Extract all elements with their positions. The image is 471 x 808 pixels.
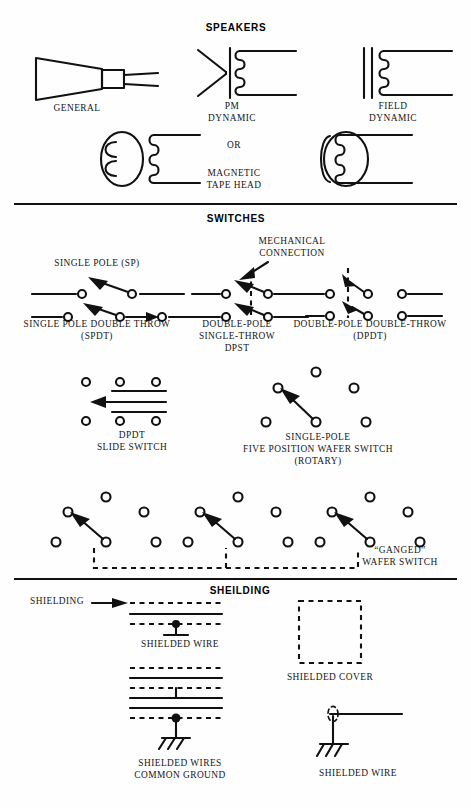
switch-spdt-symbol: [28, 272, 188, 318]
tape-head-left-symbol: [92, 130, 202, 188]
label-wafer-line2: FIVE POSITION WAFER SWITCH: [243, 444, 393, 456]
shielded-wire-single-symbol: [128, 596, 224, 636]
switch-dpst-symbol: [192, 272, 310, 318]
label-speaker-pm-line2: DYNAMIC: [208, 113, 256, 125]
label-speaker-field-line2: DYNAMIC: [369, 113, 417, 125]
section-heading-switches: SWITCHES: [207, 213, 265, 224]
label-speaker-general: GENERAL: [54, 103, 101, 115]
label-single-pole: SINGLE POLE (SP): [54, 258, 139, 270]
label-tape-head-line1: MAGNETIC: [207, 168, 260, 180]
label-slide-switch-line2: SLIDE SWITCH: [97, 442, 167, 454]
switch-dpdt-symbol: [306, 268, 446, 318]
switch-wafer-rotary-symbol: [258, 364, 376, 430]
label-wafer-line1: SINGLE-POLE: [286, 432, 351, 444]
label-speaker-field-line1: FIELD: [379, 101, 408, 113]
speaker-general-symbol: [30, 48, 160, 104]
switch-dpdt-slide-symbol: [78, 374, 188, 426]
tape-head-right-symbol: [310, 130, 416, 188]
label-spdt-line2: (SPDT): [81, 331, 113, 343]
shielding-callout-arrow-icon: [92, 597, 132, 611]
label-shielded-wires-cg-line1: SHIELDED WIRES: [138, 758, 221, 770]
label-dpst-line1: DOUBLE-POLE: [202, 319, 272, 331]
label-shielded-wire-1: SHIELDED WIRE: [141, 639, 219, 651]
speaker-field-dynamic-symbol: [358, 46, 458, 98]
label-dpst-line2: SINGLE-THROW: [199, 331, 275, 343]
shielded-cover-symbol: [296, 598, 364, 666]
section-heading-shielding: SHEILDING: [210, 585, 271, 596]
divider-speakers-switches: [14, 203, 457, 205]
label-wafer-line3: (ROTARY): [294, 456, 341, 468]
label-dpst-line3: DPST: [225, 343, 250, 355]
label-dpdt-line1: DOUBLE-POLE DOUBLE-THROW: [293, 319, 446, 331]
shielded-wire-grounded-symbol: [316, 700, 406, 762]
label-shielded-wire-2: SHIELDED WIRE: [319, 768, 397, 780]
divider-switches-shielding: [14, 578, 457, 580]
label-ganged-line2: WAFER SWITCH: [362, 557, 437, 569]
label-ganged-line1: “GANGED”: [374, 545, 426, 557]
label-speaker-pm-line1: PM: [225, 101, 239, 113]
shielded-wires-common-ground-symbol: [128, 664, 224, 754]
label-mechanical-connection-line1: MECHANICAL: [259, 236, 326, 248]
label-tape-head-line2: TAPE HEAD: [206, 180, 261, 192]
speaker-pm-dynamic-symbol: [196, 46, 300, 98]
label-dpdt-line2: (DPDT): [353, 331, 386, 343]
label-slide-switch-line1: DPDT: [119, 430, 145, 442]
label-or: OR: [227, 140, 241, 152]
symbol-reference-page: SPEAKERS GENERAL PM DYNAMIC FIELD DYNAMI…: [0, 0, 471, 808]
label-shielded-cover: SHIELDED COVER: [287, 672, 373, 684]
label-shielded-wires-cg-line2: COMMON GROUND: [134, 770, 226, 782]
label-shielding-callout: SHIELDING: [30, 596, 84, 608]
section-heading-speakers: SPEAKERS: [206, 22, 267, 33]
label-spdt-line1: SINGLE POLE DOUBLE THROW: [24, 319, 171, 331]
